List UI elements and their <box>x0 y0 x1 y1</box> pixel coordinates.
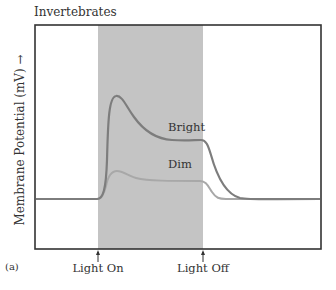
dim-curve-label: Dim <box>168 157 192 171</box>
light-off-label: Light Off <box>177 261 229 275</box>
membrane-potential-plot: Bright Dim <box>0 0 336 290</box>
light-on-shaded-region <box>98 25 203 249</box>
bright-curve-label: Bright <box>168 120 205 134</box>
light-on-label: Light On <box>72 261 123 275</box>
panel-label: (a) <box>5 261 19 272</box>
